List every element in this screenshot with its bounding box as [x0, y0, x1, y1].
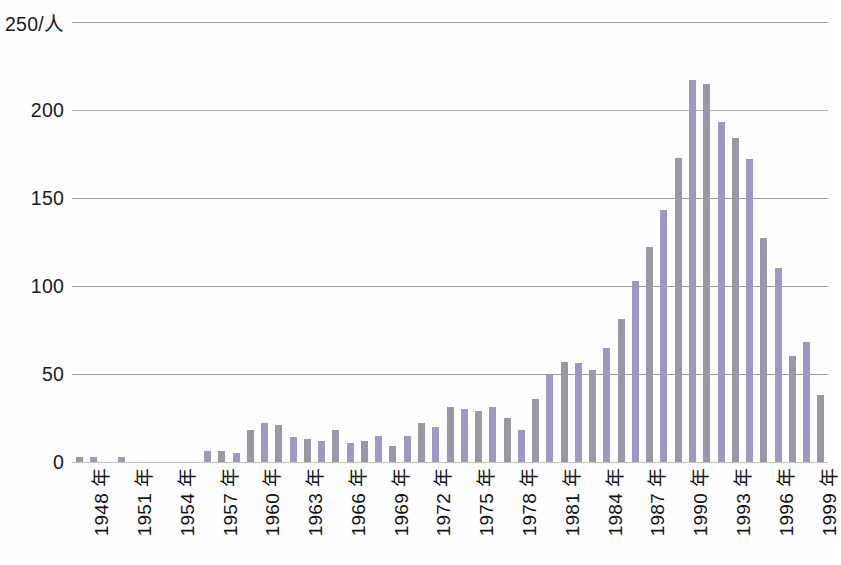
x-tick-label-1999: 1999 年: [814, 468, 841, 536]
x-tick-label-1984: 1984 年: [600, 468, 627, 536]
x-tick-label-1957: 1957 年: [215, 468, 242, 536]
y-axis-labels: 050100150200250/人: [0, 0, 72, 565]
x-tick-label-1987: 1987 年: [642, 468, 669, 536]
x-tick-label-1960: 1960 年: [257, 468, 284, 536]
bar: [432, 427, 439, 462]
x-axis-labels: 1948 年1951 年1954 年1957 年1960 年1963 年1966…: [72, 462, 828, 565]
bar: [233, 453, 240, 462]
bar: [589, 370, 596, 462]
bar: [675, 158, 682, 462]
bar-series: [72, 22, 828, 462]
bar: [418, 423, 425, 462]
x-tick-label-1990: 1990 年: [685, 468, 712, 536]
bar: [618, 319, 625, 462]
bar: [361, 441, 368, 462]
bar: [575, 363, 582, 462]
bar: [532, 399, 539, 462]
bar: [546, 374, 553, 462]
x-tick-label-1951: 1951 年: [129, 468, 156, 536]
bar: [632, 281, 639, 462]
bar: [204, 451, 211, 462]
x-tick-label-1981: 1981 年: [557, 468, 584, 536]
bar: [247, 430, 254, 462]
x-tick-label-1948: 1948 年: [86, 468, 113, 536]
bar: [518, 430, 525, 462]
x-tick-label-1993: 1993 年: [728, 468, 755, 536]
bar: [746, 159, 753, 462]
bar: [760, 238, 767, 462]
x-tick-label-1972: 1972 年: [428, 468, 455, 536]
y-tick-label-200: 200: [31, 99, 64, 122]
bar: [375, 436, 382, 462]
bar: [475, 411, 482, 462]
bar: [404, 436, 411, 462]
bar: [318, 441, 325, 462]
bar: [275, 425, 282, 462]
bar: [447, 407, 454, 462]
x-tick-label-1954: 1954 年: [172, 468, 199, 536]
x-tick-label-1963: 1963 年: [300, 468, 327, 536]
bar: [561, 362, 568, 462]
bar: [603, 348, 610, 462]
bar: [775, 268, 782, 462]
bar: [489, 407, 496, 462]
bar: [703, 84, 710, 462]
bar: [646, 247, 653, 462]
bar: [660, 210, 667, 462]
bar: [689, 80, 696, 462]
bar: [732, 138, 739, 462]
y-tick-label-50: 50: [42, 363, 64, 386]
x-tick-label-1966: 1966 年: [343, 468, 370, 536]
x-tick-label-1969: 1969 年: [386, 468, 413, 536]
bar: [389, 446, 396, 462]
x-tick-label-1975: 1975 年: [471, 468, 498, 536]
bar: [817, 395, 824, 462]
bar: [332, 430, 339, 462]
x-tick-label-1996: 1996 年: [771, 468, 798, 536]
plot-area: [72, 22, 828, 462]
y-tick-label-150: 150: [31, 187, 64, 210]
bar: [218, 451, 225, 462]
y-tick-label-0: 0: [53, 451, 64, 474]
bar: [304, 439, 311, 462]
bar: [347, 443, 354, 462]
bar: [718, 122, 725, 462]
bar: [461, 409, 468, 462]
bar: [803, 342, 810, 462]
y-tick-label-100: 100: [31, 275, 64, 298]
bar: [290, 437, 297, 462]
bar: [504, 418, 511, 462]
x-tick-label-1978: 1978 年: [514, 468, 541, 536]
bar: [261, 423, 268, 462]
y-tick-label-250: 250/人: [5, 8, 64, 37]
bar: [789, 356, 796, 462]
